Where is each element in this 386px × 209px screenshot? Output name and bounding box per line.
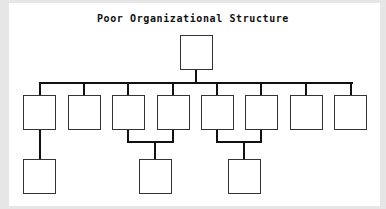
node-l1-2: [68, 95, 101, 130]
connector-drop-6: [260, 82, 262, 95]
connector-merge-drop-1: [154, 141, 156, 159]
connector-merge-drop-2: [243, 141, 245, 159]
node-l1-7: [290, 95, 323, 130]
node-top: [180, 35, 213, 70]
connector-merge-bar-2: [216, 141, 262, 143]
connector-drop-1: [39, 82, 41, 95]
node-l1-3: [112, 95, 145, 130]
node-l2-2: [139, 159, 172, 194]
connector-merge-bar-1: [127, 141, 174, 143]
diagram-panel: [9, 3, 380, 206]
connector-drop-5: [216, 82, 218, 95]
node-l1-6: [245, 95, 278, 130]
node-l1-8: [334, 95, 367, 130]
connector-drop-3: [127, 82, 129, 95]
connector-drop-2: [83, 82, 85, 95]
node-l1-5: [201, 95, 234, 130]
connector-drop-7: [305, 82, 307, 95]
diagram-title: Poor Organizational Structure: [0, 13, 386, 24]
node-l2-1: [23, 159, 56, 194]
connector-drop-4: [172, 82, 174, 95]
node-l2-3: [228, 159, 261, 194]
node-l1-4: [157, 95, 190, 130]
connector-drop-8: [350, 82, 352, 95]
connector-l1-1-to-l2-1: [39, 130, 41, 159]
node-l1-1: [23, 95, 56, 130]
